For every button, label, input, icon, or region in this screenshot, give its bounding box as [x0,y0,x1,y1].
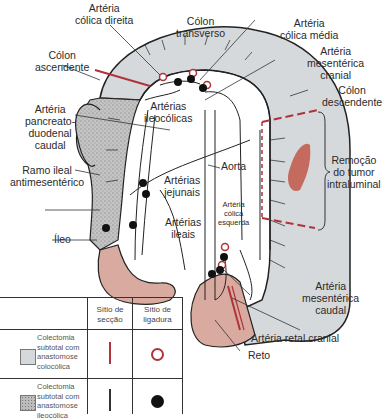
ligature-marker-black-dot [151,395,164,408]
desc-line: subtotal com [37,392,80,402]
label-line: do tumor [327,166,381,178]
label-line: cranial [307,69,364,81]
label-line: Artéria [307,45,364,57]
desc-line: colocólica [37,362,80,372]
label-line: ileais [165,228,201,240]
label-ileo: Íleo [54,233,71,245]
section-marker-black-line [109,389,111,411]
label-line: cólica média [280,29,338,41]
label-line: Artérias [165,216,201,228]
label-arteria-retal-cranial: Artéria retal cranial [251,332,339,344]
label-line: Artéria retal cranial [251,332,339,344]
legend-row-2-description: Colectomia subtotal com anastomose ileoc… [37,382,80,420]
legend-top-border [0,297,182,298]
label-arteria-mesenterica-cranial: Artéria mesentérica cranial [307,45,364,81]
header-line: Sítio de [88,305,132,315]
legend-table: Sítio de secção Sítio de ligadura Colect… [0,297,252,414]
label-arterias-jejunais: Artérias jejunais [164,174,200,198]
header-line: ligadura [133,315,182,325]
label-aorta: Aorta [221,160,246,172]
label-line: transverso [176,27,225,39]
label-line: pancreato- [25,115,75,127]
desc-line: Colectomia [37,382,80,392]
legend-swatch-stippled [20,395,36,411]
label-line: antimesentérico [10,176,84,188]
label-ramo-ileal-antimesenterico: Ramo ileal antimesentérico [10,164,84,188]
header-line: Sítio de [133,305,182,315]
label-arteria-pancreatoduodenal-caudal: Artéria pancreato- duodenal caudal [25,103,75,151]
label-line: caudal [302,304,359,316]
legend-col-divider-3 [182,297,183,414]
label-line: esquerda [218,218,249,227]
label-line: caudal [25,139,75,151]
label-arteria-colica-media: Artéria cólica média [280,17,338,41]
label-line: Cólon [176,15,225,27]
label-line: descendente [322,96,382,108]
legend-header-divider [0,329,182,330]
label-line: mesentérica [302,292,359,304]
label-line: ileocólicas [144,112,192,124]
legend-row-divider [0,378,182,379]
label-line: Artéria [25,103,75,115]
label-line: duodenal [25,127,75,139]
desc-line: Colectomia [37,333,80,343]
label-arteria-colica-direita: Artéria cólica direita [75,2,133,26]
label-line: mesentérica [307,57,364,69]
label-line: Ramo ileal [10,164,84,176]
header-line: secção [88,315,132,325]
desc-line: ileocólica [37,411,80,420]
label-colon-transverso: Cólon transverso [176,15,225,39]
legend-header-ligature: Sítio de ligadura [133,305,182,325]
label-line: cólica direita [75,14,133,26]
legend-row-1-description: Colectomia subtotal com anastomose coloc… [37,333,80,371]
label-line: Artéria [218,200,249,209]
label-line: Artéria [280,17,338,29]
desc-line: anastomose [37,352,80,362]
legend-header-section: Sítio de secção [88,305,132,325]
label-line: jejunais [164,186,200,198]
label-line: Cólon [322,84,382,96]
label-line: cólica [218,209,249,218]
label-line: Aorta [221,160,246,172]
label-line: ascendente [35,61,89,73]
label-line: Artéria [302,280,359,292]
label-arteria-colica-esquerda: Artéria cólica esquerda [218,200,249,227]
label-line: Artéria [75,2,133,14]
label-arterias-ileocolicas: Artérias ileocólicas [144,100,192,124]
label-colon-descendente: Cólon descendente [322,84,382,108]
desc-line: subtotal com [37,343,80,353]
desc-line: anastomose [37,401,80,411]
label-line: Artérias [164,174,200,186]
ligature-marker-red-ring [151,348,164,361]
label-remocao-tumor: Remoção do tumor intraluminal [327,154,381,190]
label-line: Artérias [144,100,192,112]
ileum [98,245,175,304]
legend-swatch-gray [20,349,36,365]
label-arteria-mesenterica-caudal: Artéria mesentérica caudal [302,280,359,316]
label-arterias-ileais: Artérias ileais [165,216,201,240]
label-line: Cólon [35,49,89,61]
label-line: Remoção [327,154,381,166]
label-line: intraluminal [327,178,381,190]
label-colon-ascendente: Cólon ascendente [35,49,89,73]
section-marker-red-line [109,342,111,364]
label-line: Íleo [54,233,71,245]
